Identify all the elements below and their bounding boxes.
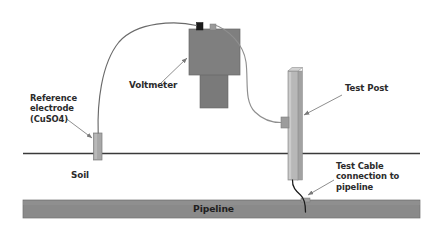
reference-electrode-highlight bbox=[95, 134, 98, 159]
wire-electrode-to-voltmeter bbox=[98, 23, 196, 133]
leader-test-cable bbox=[308, 180, 334, 195]
leader-test-post bbox=[304, 95, 342, 115]
label-test-post: Test Post bbox=[345, 83, 388, 93]
voltmeter-lower-housing bbox=[200, 74, 228, 108]
voltmeter-terminal-negative bbox=[197, 23, 204, 31]
label-voltmeter: Voltmeter bbox=[129, 80, 177, 91]
pipeline-cable-notch bbox=[301, 198, 310, 202]
label-test-cable: Test Cable connection to pipeline bbox=[336, 161, 399, 192]
label-reference-electrode: Reference electrode (CuSO4) bbox=[30, 93, 77, 124]
label-pipeline: Pipeline bbox=[0, 203, 427, 214]
diagram-canvas: Reference electrode (CuSO4) Voltmeter Te… bbox=[0, 0, 427, 230]
label-soil: Soil bbox=[71, 170, 89, 181]
test-post-top-cap bbox=[288, 68, 303, 72]
test-post-connector-block bbox=[281, 117, 289, 128]
